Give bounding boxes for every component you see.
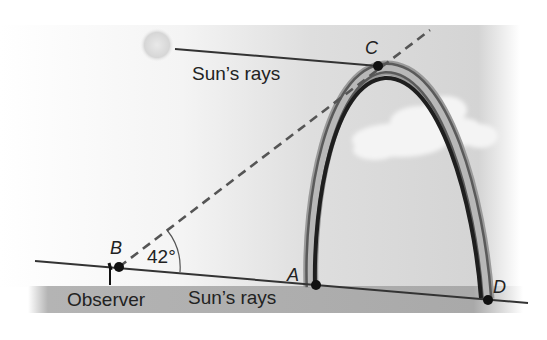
- sun-icon: [139, 27, 175, 63]
- point-label-c: C: [365, 38, 379, 58]
- rainbow-diagram: Sun’s rays Sun’s rays Observer 42° B C A…: [0, 0, 547, 340]
- angle-label: 42°: [147, 246, 176, 267]
- point-d: [483, 295, 493, 305]
- point-label-a: A: [286, 265, 299, 285]
- point-label-b: B: [110, 238, 122, 258]
- observer-label: Observer: [67, 289, 146, 310]
- observer-figure: [109, 263, 111, 285]
- point-a: [311, 280, 321, 290]
- top-ray-label: Sun’s rays: [192, 63, 280, 84]
- bottom-ray-label: Sun’s rays: [188, 287, 276, 308]
- point-label-d: D: [493, 277, 506, 297]
- point-c: [373, 61, 383, 71]
- point-b: [114, 262, 124, 272]
